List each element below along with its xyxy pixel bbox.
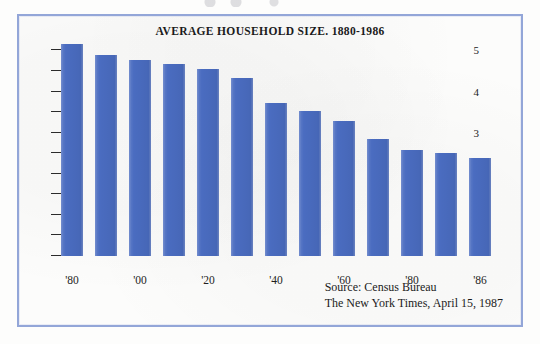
chart-page: AVERAGE HOUSEHOLD SIZE. 1880-1986 12345 …	[0, 0, 540, 344]
bar	[61, 44, 83, 256]
x-tick-label: '80	[65, 274, 79, 286]
plot-area: 12345	[55, 34, 505, 256]
bar	[129, 60, 151, 257]
source-line-1: Source: Census Bureau	[325, 279, 503, 295]
chart-frame: AVERAGE HOUSEHOLD SIZE. 1880-1986 12345 …	[17, 14, 523, 327]
source-note: Source: Census Bureau The New York Times…	[325, 279, 503, 311]
bar	[265, 103, 287, 256]
scan-artifact-top	[196, 0, 316, 7]
bar	[299, 111, 321, 256]
bar	[231, 78, 253, 256]
bar-series	[61, 34, 505, 256]
x-tick-label: '00	[133, 274, 147, 286]
source-line-2: The New York Times, April 15, 1987	[325, 295, 503, 311]
bar	[469, 158, 491, 256]
x-tick-label: '20	[201, 274, 215, 286]
bar	[197, 69, 219, 256]
bar	[163, 64, 185, 256]
bar	[95, 55, 117, 256]
bar	[367, 139, 389, 256]
bar	[435, 153, 457, 256]
bar	[333, 121, 355, 256]
bar	[401, 150, 423, 256]
x-tick-label: '40	[269, 274, 283, 286]
